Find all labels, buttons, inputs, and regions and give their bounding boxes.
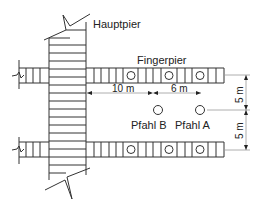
- left-break-icon: [12, 146, 24, 152]
- dimension-lines: [86, 75, 250, 150]
- lower-finger-pier: [86, 142, 224, 157]
- arrow-down-icon: [244, 145, 248, 150]
- pile-circle: [127, 72, 135, 80]
- upper-finger-pier: [86, 68, 224, 83]
- left-break-icon: [12, 72, 24, 78]
- arrow-up-icon: [244, 110, 248, 115]
- top-break-icon: [44, 14, 90, 40]
- dim-6m-label: 6 m: [171, 83, 188, 94]
- pile-b-circle: [154, 106, 163, 115]
- pile-a-label: Pfahl A: [175, 119, 211, 131]
- main-pier: [44, 14, 90, 199]
- pile-circle: [196, 72, 204, 80]
- pile-a-circle: [196, 106, 205, 115]
- lower-left-stub: [12, 137, 49, 164]
- pile-circle: [196, 146, 204, 154]
- arrow-up-icon: [244, 75, 248, 80]
- arrow-down-icon: [244, 105, 248, 110]
- pile-circle: [127, 146, 135, 154]
- upper-left-stub: [12, 60, 49, 89]
- pile-b-label: Pfahl B: [131, 119, 166, 131]
- pile-circle: [165, 72, 173, 80]
- arrow-left-icon: [87, 91, 92, 95]
- arrow-left-icon: [153, 91, 158, 95]
- dim-10m-label: 10 m: [112, 83, 134, 94]
- main-pier-hatching: [49, 30, 86, 173]
- dim-5m-upper-label: 5 m: [234, 86, 245, 103]
- pier-diagram: Hauptpier Fingerpier 10 m 6 m Pfahl B Pf…: [0, 0, 261, 208]
- dim-5m-lower-label: 5 m: [234, 122, 245, 139]
- finger-pier-label: Fingerpier: [137, 54, 187, 66]
- pile-circle: [165, 146, 173, 154]
- arrow-right-icon: [196, 91, 201, 95]
- main-pier-label: Hauptpier: [93, 18, 141, 30]
- arrow-right-icon: [148, 91, 153, 95]
